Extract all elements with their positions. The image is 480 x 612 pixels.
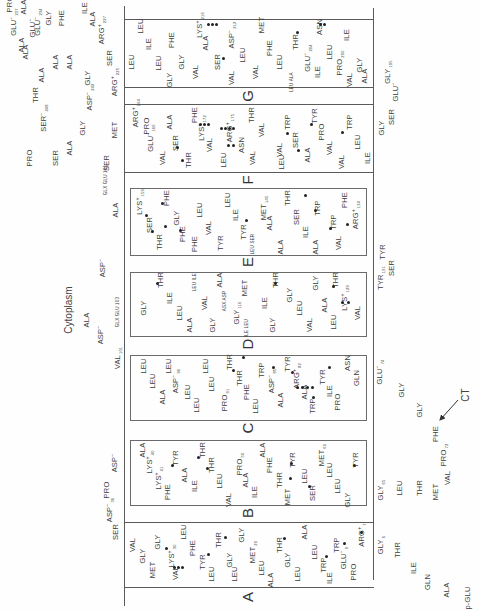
interaction-dot (272, 366, 275, 369)
interaction-dot (296, 386, 299, 389)
interaction-dot (199, 123, 202, 126)
interaction-dot (332, 285, 335, 288)
interaction-dot (325, 555, 328, 558)
interaction-dot (145, 214, 148, 217)
interaction-dot (206, 467, 209, 470)
interaction-dot (289, 477, 292, 480)
interaction-dot (232, 127, 235, 130)
interaction-dot (242, 356, 245, 359)
interaction-dot (346, 223, 349, 226)
interaction-dot (341, 301, 344, 304)
interaction-dot (291, 371, 294, 374)
interaction-dot (197, 456, 200, 459)
interaction-dot (245, 219, 248, 222)
interaction-dot (319, 23, 322, 26)
interaction-dot (297, 149, 300, 152)
interaction-dot (329, 227, 332, 230)
interaction-dot (290, 462, 293, 465)
interaction-dot (177, 566, 180, 569)
interaction-dot (228, 127, 231, 130)
interaction-dot (296, 31, 299, 34)
interaction-dot (181, 159, 184, 162)
interaction-dot (161, 202, 164, 205)
interaction-dot (308, 485, 311, 488)
interaction-dot (222, 57, 225, 60)
interaction-dot (286, 132, 289, 135)
interaction-dot (283, 537, 286, 540)
interaction-dot (341, 131, 344, 134)
interaction-dot (343, 542, 346, 545)
interaction-dot (165, 547, 168, 550)
interaction-dot (215, 23, 218, 26)
interaction-dot (164, 225, 167, 228)
interaction-dot (211, 23, 214, 26)
interaction-dot (232, 144, 235, 147)
bacteriorhodopsin-topology-diagram: Cytoplasm CT ABCDEFG GLU−237PROALAGLU−23… (0, 0, 480, 612)
interaction-dot (311, 386, 314, 389)
interaction-dot (360, 531, 363, 534)
interaction-dot (207, 123, 210, 126)
interaction-dot (312, 396, 315, 399)
interaction-dot (227, 144, 230, 147)
interaction-dot (301, 386, 304, 389)
interaction-dot (173, 566, 176, 569)
interaction-dot (176, 146, 179, 149)
interaction-dot (353, 464, 356, 467)
interaction-dot (323, 23, 326, 26)
interaction-dot (207, 553, 210, 556)
interaction-dot (171, 464, 174, 467)
interaction-dot (328, 366, 331, 369)
interaction-dot (314, 209, 317, 212)
interaction-dot (207, 23, 210, 26)
interaction-dot (232, 369, 235, 372)
interaction-dot (224, 127, 227, 130)
interaction-dot (179, 229, 182, 232)
interaction-dot (203, 123, 206, 126)
interaction-dot (274, 282, 277, 285)
interaction-dot (151, 230, 154, 233)
interaction-dot (347, 301, 350, 304)
interaction-dot (304, 194, 307, 197)
interaction-dot (220, 127, 223, 130)
interaction-dot (310, 123, 313, 126)
interaction-dot (181, 566, 184, 569)
interaction-dot (306, 386, 309, 389)
interaction-dot (156, 282, 159, 285)
interaction-dot (224, 536, 227, 539)
